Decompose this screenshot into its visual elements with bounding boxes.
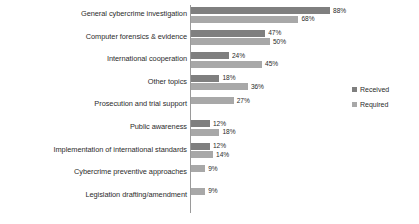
bar-value-label: 50% (273, 38, 286, 45)
legend-item[interactable]: Required (352, 101, 389, 108)
legend-swatch-icon (352, 102, 357, 107)
category-label: Other topics (148, 77, 187, 86)
bar-value-label: 45% (265, 60, 278, 67)
category-label: Implementation of international standard… (53, 145, 187, 154)
value-axis-line (190, 5, 191, 213)
category-label: Cybercrime preventive approaches (74, 167, 187, 176)
bar-value-label: 27% (237, 97, 250, 104)
bar-chart: General cybercrime investigation88%68%Co… (0, 0, 419, 224)
bar-value-label: 47% (268, 29, 281, 36)
bar-value-label: 24% (232, 52, 245, 59)
category-label: Prosecution and trial support (94, 99, 187, 108)
bar-value-label: 12% (213, 120, 226, 127)
bar-required (191, 97, 234, 104)
bar-value-label: 9% (208, 187, 217, 194)
bar-received (191, 120, 210, 127)
legend-item[interactable]: Received (352, 86, 389, 93)
category-label: Computer forensics & evidence (86, 32, 187, 41)
bar-value-label: 14% (216, 151, 229, 158)
chart-legend: ReceivedRequired (352, 86, 389, 116)
bar-value-label: 18% (222, 74, 235, 81)
bar-received (191, 75, 219, 82)
legend-swatch-icon (352, 87, 357, 92)
bar-received (191, 30, 265, 37)
bar-value-label: 88% (333, 7, 346, 14)
bar-required (191, 16, 298, 23)
bar-required (191, 38, 270, 45)
bar-required (191, 83, 248, 90)
bar-required (191, 165, 205, 172)
bar-required (191, 61, 262, 68)
bar-required (191, 188, 205, 195)
bar-required (191, 129, 219, 136)
category-label: General cybercrime investigation (81, 9, 187, 18)
bar-required (191, 151, 213, 158)
category-label: International cooperation (107, 54, 187, 63)
category-label: Legislation drafting/amendment (85, 190, 187, 199)
bar-value-label: 12% (213, 142, 226, 149)
legend-label: Required (360, 101, 388, 108)
legend-label: Received (360, 86, 389, 93)
bar-value-label: 68% (301, 15, 314, 22)
category-label: Public awareness (130, 122, 187, 131)
bar-value-label: 18% (222, 128, 235, 135)
bar-received (191, 52, 229, 59)
bar-received (191, 7, 330, 14)
bar-received (191, 143, 210, 150)
bar-value-label: 36% (251, 83, 264, 90)
bar-value-label: 9% (208, 165, 217, 172)
